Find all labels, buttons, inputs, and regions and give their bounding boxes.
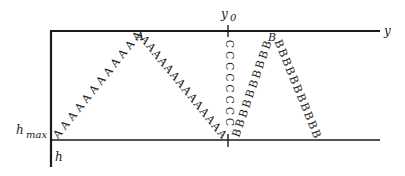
- ray-path-diagram: y y 0 h max h AAAAAAAAAAAAAAAAAAAAAAAAAA…: [0, 0, 405, 176]
- path-glyph-c: C: [223, 73, 236, 81]
- path-glyph-c: C: [223, 107, 236, 115]
- diagram-canvas: y y 0 h max h AAAAAAAAAAAAAAAAAAAAAAAAAA…: [0, 0, 405, 176]
- h-axis-label: h: [55, 150, 63, 164]
- ray-path-a: AAAAAAAAAAAAAAAAAAAAAAAAAAA: [50, 28, 230, 142]
- hmax-label-sub: max: [26, 129, 47, 140]
- y-axis-label: y: [383, 24, 391, 38]
- ray-path-b: BBBBBBBBBBBBBBBBBBBBBB: [230, 31, 324, 141]
- path-glyph-c: C: [223, 84, 236, 92]
- y0-label-sub: 0: [230, 12, 237, 23]
- path-peak-b: B: [267, 31, 276, 44]
- path-glyph-c: C: [223, 51, 236, 59]
- y0-label-main: y: [220, 7, 228, 21]
- path-glyph-c: C: [223, 96, 236, 104]
- path-glyph-c: C: [223, 40, 236, 48]
- ray-path-c: CCCCCCCC: [223, 40, 236, 126]
- hmax-label-main: h: [16, 123, 24, 137]
- path-peak-a: A: [135, 30, 144, 43]
- path-glyph-c: C: [223, 62, 236, 70]
- ray-paths: AAAAAAAAAAAAAAAAAAAAAAAAAAACCCCCCCCBBBBB…: [50, 28, 324, 142]
